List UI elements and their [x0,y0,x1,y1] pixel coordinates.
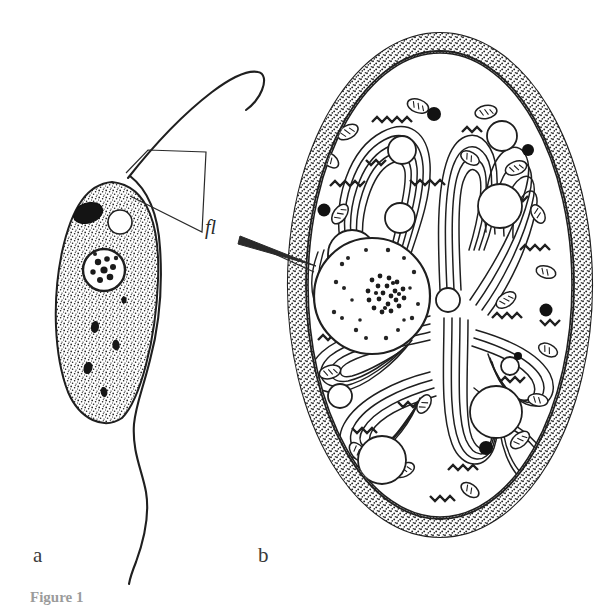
cyst-nucleus [314,238,430,354]
figure-caption-clipped: Figure 1 [30,592,250,605]
clear-vacuole [108,210,132,234]
figure-root: fl a b Figure 1 [0,0,606,605]
panel-a-flagellate [56,72,264,584]
figure-illustration [0,0,606,605]
anterior-flagellum [128,72,264,178]
panel-b-cyst [238,33,592,537]
fl-annotation-label: fl [205,216,216,239]
figure-caption-text: Figure 1 [30,592,83,605]
panel-label-a: a [33,545,42,566]
panel-label-b: b [258,545,269,566]
